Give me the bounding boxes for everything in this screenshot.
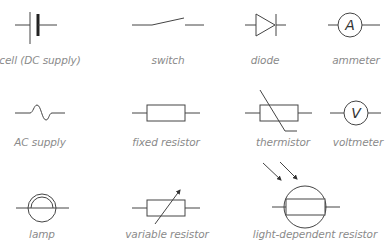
lamp-symbol-icon [16,194,69,222]
lamp-label: lamp [29,228,55,240]
ac-supply-label: AC supply [14,136,66,148]
switch-label: switch [152,54,185,66]
cell-label: cell (DC supply) [0,54,81,66]
diode-symbol-icon [245,14,286,36]
fixed-resistor-label: fixed resistor [132,136,199,148]
switch-symbol-icon [132,18,204,25]
circuit-symbols-diagram: A V [0,0,387,251]
diode-label: diode [251,54,280,66]
voltmeter-letter: V [351,105,362,121]
thermistor-symbol-icon [245,90,312,131]
voltmeter-label: voltmeter [333,136,383,148]
cell-symbol-icon [15,12,57,44]
variable-resistor-symbol-icon [132,190,200,224]
variable-resistor-label: variable resistor [125,228,209,240]
ldr-symbol-icon [263,162,340,228]
ac-supply-symbol-icon [15,105,65,120]
ammeter-letter: A [344,17,355,33]
ammeter-label: ammeter [332,54,380,66]
thermistor-label: thermistor [256,136,310,148]
fixed-resistor-symbol-icon [132,105,200,121]
ldr-label: light-dependent resistor [253,228,377,240]
